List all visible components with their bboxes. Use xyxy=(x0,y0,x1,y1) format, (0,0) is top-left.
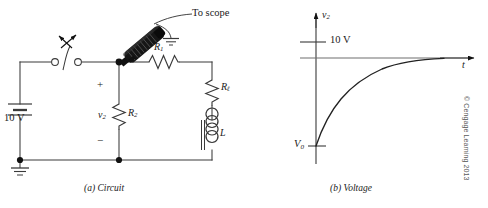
switch-blade[interactable] xyxy=(63,46,70,70)
y-axis-label: v2 xyxy=(322,10,330,21)
polarity-minus-label: − xyxy=(97,135,103,146)
figure-canvas xyxy=(0,0,488,208)
voltage-plot-panel xyxy=(300,13,474,164)
copyright-notice: © Cengage Learning 2013 xyxy=(458,96,470,196)
probe-leader-line xyxy=(154,14,192,24)
switch-arrow-right xyxy=(61,35,76,48)
node-dot-bottom-left xyxy=(17,157,23,163)
polarity-plus-label: + xyxy=(97,79,103,90)
circuit-panel xyxy=(8,14,218,175)
inductor-l-label: L xyxy=(220,128,226,138)
caption-voltage: (b) Voltage xyxy=(330,183,372,193)
resistor-r2 xyxy=(113,104,125,130)
voltage-curve xyxy=(316,58,444,146)
resistor-r2-label: R2 xyxy=(128,108,138,119)
switch-terminal-left[interactable] xyxy=(52,59,59,66)
resistor-r1-label: R1 xyxy=(154,42,164,53)
figure-rl-circuit-and-voltage: 10 V To scope R1 R2 Rℓ L v2 + − v2 10 V … xyxy=(0,0,488,208)
switch-arrow-left xyxy=(59,36,72,48)
resistor-rl-label: Rℓ xyxy=(221,82,230,93)
node-voltage-subscript: 2 xyxy=(102,113,105,120)
resistor-rl-subscript: ℓ xyxy=(227,85,230,92)
node-dot-bottom-middle xyxy=(116,157,122,163)
resistor-r1 xyxy=(149,56,180,69)
y-axis-label-subscript: 2 xyxy=(326,13,329,20)
v0-label-subscript: 0 xyxy=(300,143,304,151)
resistor-rl xyxy=(206,80,218,106)
probe-ground-symbol xyxy=(163,39,179,46)
x-axis-label: t xyxy=(462,60,465,70)
caption-circuit: (a) Circuit xyxy=(84,183,124,193)
to-scope-label: To scope xyxy=(192,8,229,19)
circuit-wiring xyxy=(20,62,212,160)
node-voltage-label: v2 xyxy=(98,110,106,121)
inductor-l xyxy=(202,108,219,150)
ten-volt-label: 10 V xyxy=(330,35,351,46)
switch[interactable] xyxy=(52,35,82,70)
resistor-r2-subscript: 2 xyxy=(134,111,137,118)
resistor-r1-subscript: 1 xyxy=(160,45,163,52)
switch-terminal-right[interactable] xyxy=(75,59,82,66)
battery-voltage-label: 10 V xyxy=(4,113,25,124)
v0-label: V0 xyxy=(294,139,304,151)
